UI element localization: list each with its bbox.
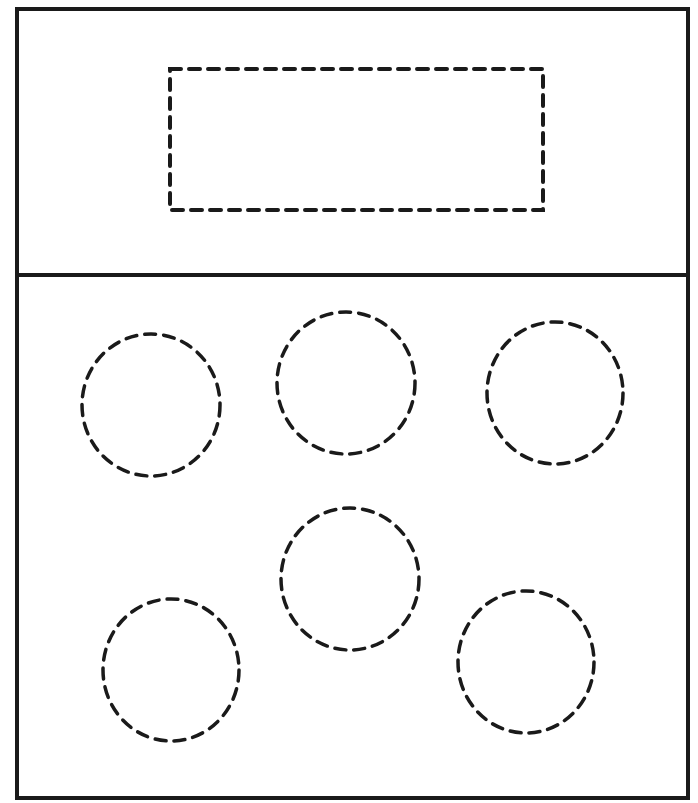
worksheet-diagram <box>0 0 698 803</box>
background <box>0 0 698 803</box>
